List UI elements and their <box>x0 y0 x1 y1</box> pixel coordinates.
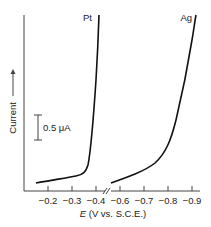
scale-bar <box>34 115 42 140</box>
chart-canvas: −0.2 −0.3 −0.4 −0.6 −0.7 −0.8 −0.9 E (V … <box>0 0 211 227</box>
x-axis-title: E (V vs. S.C.E.) <box>80 208 147 219</box>
series-pt-curve <box>36 15 99 183</box>
x-axis-title-rest: (V vs. S.C.E.) <box>86 208 146 219</box>
series-pt-label: Pt <box>83 12 92 23</box>
series-ag-label: Ag <box>180 12 192 23</box>
y-axis-title-text: Current <box>7 102 18 134</box>
x-ticks <box>48 186 192 191</box>
y-axis-title: Current <box>7 69 18 134</box>
x-tick-label: −0.8 <box>159 195 178 206</box>
x-tick-label: −0.3 <box>63 195 82 206</box>
x-tick-label: −0.4 <box>87 195 106 206</box>
x-tick-label: −0.6 <box>111 195 130 206</box>
x-tick-label: −0.9 <box>183 195 202 206</box>
x-tick-label: −0.2 <box>39 195 58 206</box>
x-tick-label: −0.7 <box>135 195 154 206</box>
series-ag-curve <box>111 15 196 183</box>
arrow-right-icon <box>11 69 16 74</box>
scale-bar-label: 0.5 μA <box>43 122 71 133</box>
x-tick-labels: −0.2 −0.3 −0.4 −0.6 −0.7 −0.8 −0.9 <box>39 195 202 206</box>
